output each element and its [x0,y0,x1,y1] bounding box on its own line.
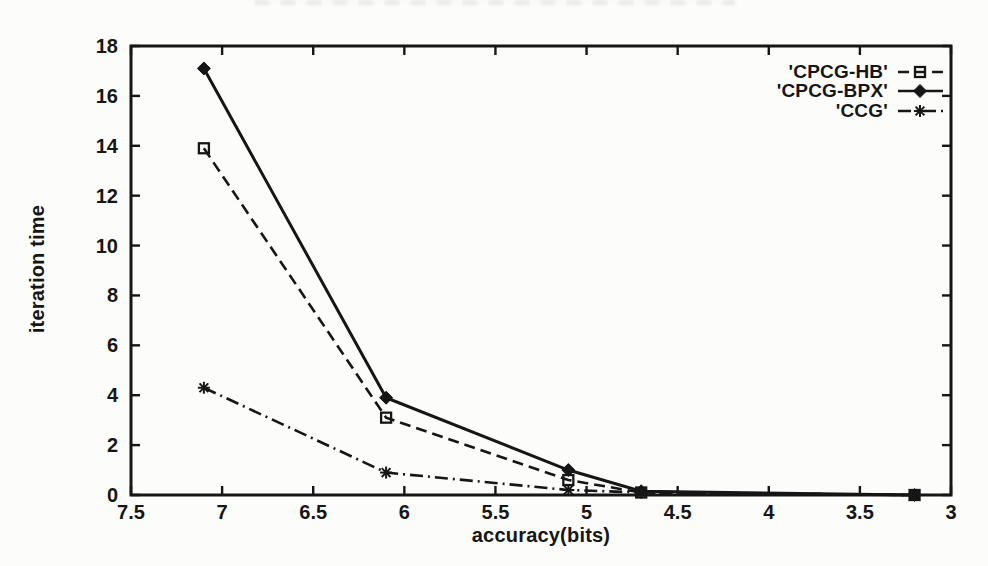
legend-sample-solid-diamond-icon [897,83,944,99]
y-tick-label: 4 [107,384,119,406]
x-tick-label: 4.5 [664,501,692,523]
legend-sample-dashed-square-icon [897,64,944,80]
y-tick-label: 14 [96,135,119,157]
legend-sample-dashdot-star-icon [897,103,944,119]
legend-label-ccg: 'CCG' [836,100,888,122]
legend: 'CPCG-HB' 'CPCG-BPX' 'CCG' [777,62,944,121]
y-axis-label: iteration time [26,169,48,369]
series-2 [198,382,921,501]
legend-row-ccg: 'CCG' [777,101,944,121]
series-0 [199,143,920,500]
legend-row-cpcg-hb: 'CPCG-HB' [777,62,944,82]
y-tick-label: 0 [107,484,118,506]
y-tick-label: 2 [107,434,118,456]
x-tick-label: 7.5 [117,501,145,523]
x-axis-label: accuracy(bits) [391,524,691,547]
y-tick-label: 18 [96,35,118,57]
x-tick-label: 7 [217,501,228,523]
chart-figure: 7.576.565.554.543.53024681012141618 iter… [0,0,988,566]
x-tick-label: 6.5 [299,501,327,523]
x-tick-label: 3 [945,501,956,523]
y-tick-label: 8 [107,284,118,306]
y-tick-label: 10 [96,235,118,257]
x-tick-label: 5 [581,501,592,523]
x-tick-label: 5.5 [482,501,510,523]
y-tick-label: 16 [96,85,118,107]
x-tick-label: 6 [399,501,410,523]
y-tick-label: 6 [107,334,118,356]
x-tick-label: 3.5 [846,501,874,523]
x-tick-label: 4 [763,501,775,523]
y-tick-label: 12 [96,185,118,207]
legend-row-cpcg-bpx: 'CPCG-BPX' [777,82,944,102]
